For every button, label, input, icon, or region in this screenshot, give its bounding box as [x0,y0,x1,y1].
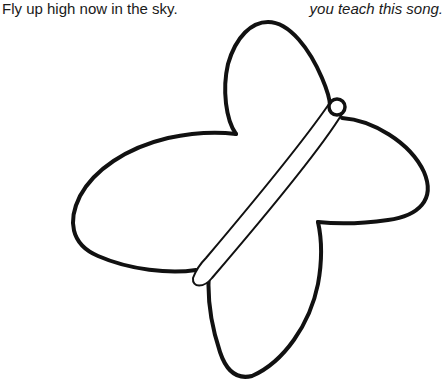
right-wing [318,118,428,223]
butterfly-illustration [0,0,446,382]
upper-wing [225,22,330,134]
butterfly-head [329,99,345,115]
